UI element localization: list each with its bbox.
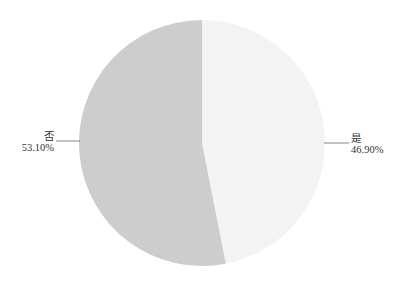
pie-slice-yes	[202, 20, 325, 264]
label-yes-name: 是	[351, 133, 383, 144]
label-no-pct: 53.10%	[22, 142, 54, 153]
label-no-name: 否	[22, 131, 54, 142]
label-yes: 是 46.90%	[351, 133, 383, 155]
label-yes-pct: 46.90%	[351, 144, 383, 155]
label-no: 否 53.10%	[22, 131, 54, 153]
pie-slices	[79, 20, 325, 266]
pie-chart	[0, 0, 400, 285]
